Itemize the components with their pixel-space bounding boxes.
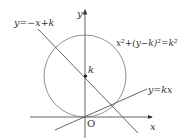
line-neg-label: y=−x+k (13, 17, 55, 28)
origin-label: O (87, 118, 95, 129)
circle-equation-label: x²+(y−k)²=k² (116, 38, 178, 48)
x-axis-label: x (150, 121, 156, 132)
diagram-canvas: y x O k y=−x+k y=kx x²+(y−k)²=k² (0, 0, 194, 140)
center-label: k (88, 64, 94, 75)
y-axis-label: y (76, 8, 83, 19)
center-point (84, 74, 87, 77)
line-kx-label: y=kx (147, 84, 173, 95)
